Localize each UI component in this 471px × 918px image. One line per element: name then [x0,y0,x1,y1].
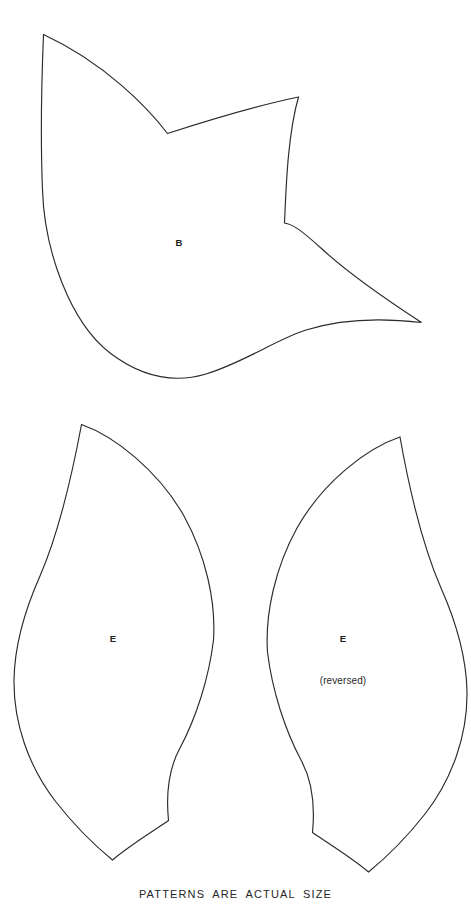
pattern-pieces-canvas [0,0,471,918]
pattern-piece-e-left-label: E [110,633,117,644]
pattern-sheet: B E E (reversed) PATTERNS ARE ACTUAL SIZ… [0,0,471,918]
pattern-piece-b-label: B [175,237,182,248]
pattern-piece-e-right-outline [267,437,467,872]
pattern-piece-e-right-label: E [340,633,347,644]
actual-size-note: PATTERNS ARE ACTUAL SIZE [0,888,471,900]
pattern-piece-b-outline [41,35,421,379]
pattern-piece-e-right-sublabel: (reversed) [320,675,367,686]
